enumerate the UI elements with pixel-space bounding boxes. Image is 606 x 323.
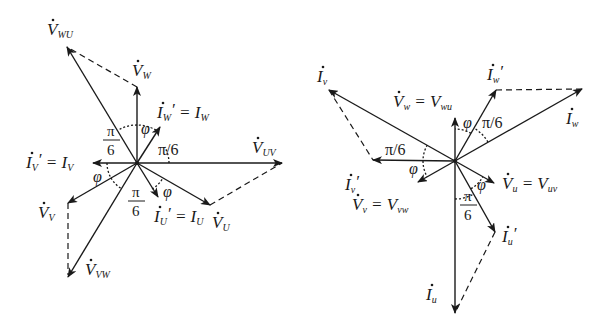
right-phasor-diagram: IvIv′Vw = VwuIw′IwVv = VvwVu = VuvIu′Iuφ… [316, 62, 582, 313]
dot-accent [507, 226, 510, 229]
phasor-diagrams: VWUVWIW′ = IWIV′ = IVVUVVUIU′ = IUVVVVWπ… [0, 0, 606, 323]
dot-accent [571, 108, 574, 111]
dot-accent [257, 137, 260, 140]
dot-accent [507, 173, 510, 176]
vector-label-v-v: Vv = Vvw [352, 195, 409, 215]
dot-accent [322, 66, 325, 69]
angle-arc [152, 178, 163, 189]
vector-label-v-w: VW [132, 61, 152, 81]
angle-label-pi-over-6: π/6 [158, 141, 179, 158]
dot-accent [90, 259, 93, 262]
left-phasor-diagram: VWUVWIW′ = IWIV′ = IVVUVVUIU′ = IUVVVVWπ… [25, 19, 282, 280]
vector-label-i-w: Iw [565, 109, 579, 129]
phasor-i-u-prime [137, 163, 158, 197]
vector-label-i-v: Iv [316, 67, 328, 87]
angle-arc [423, 145, 427, 161]
vector-label-v-vw: VVW [85, 260, 111, 280]
dot-accent [52, 19, 55, 22]
dashed-construction-line [210, 163, 282, 205]
dot-accent [159, 206, 162, 209]
phasor-v-v [68, 163, 137, 203]
angle-label-phi: φ [141, 120, 150, 138]
angle-label-pi: π [107, 123, 115, 139]
vector-label-v-u: Vu = Vuv [502, 174, 558, 194]
vector-label-v-u: VU [212, 213, 230, 233]
angle-label-pi-over-6: π/6 [482, 114, 503, 131]
angle-arc [118, 125, 137, 130]
angle-arc [111, 178, 122, 189]
dashed-construction-line [329, 90, 373, 160]
angle-label-phi: φ [409, 160, 418, 178]
vector-label-v-w: Vw = Vwu [393, 92, 452, 112]
phasor-v-vw [68, 163, 137, 277]
angle-label-pi-over-6: π/6 [385, 141, 406, 158]
phasor-v-wu [67, 47, 137, 163]
dot-accent [162, 102, 165, 105]
dot-accent [357, 194, 360, 197]
dashed-construction-line [455, 232, 495, 313]
dashed-construction-line [67, 47, 137, 87]
phasor-v-u [137, 163, 210, 205]
vector-label-v-uv: VUV [252, 138, 278, 158]
vector-label-v-v: VV [38, 203, 56, 223]
origin-point [453, 159, 457, 163]
dashed-construction-line [496, 89, 582, 90]
vector-label-i-w-prime: Iw′ [486, 62, 503, 85]
angle-label-phi: φ [163, 183, 172, 201]
phasor-v-v [418, 161, 455, 182]
angle-arc [107, 163, 111, 178]
dot-accent [431, 284, 434, 287]
angle-label-phi: φ [477, 176, 486, 194]
phasor-i-w [455, 89, 582, 161]
angle-label-pi: π [132, 184, 140, 200]
dot-accent [31, 152, 34, 155]
angle-arc [423, 161, 427, 177]
angle-label-denominator: 6 [464, 207, 472, 223]
angle-label-phi: φ [93, 168, 102, 186]
dot-accent [137, 60, 140, 63]
angle-label-denominator: 6 [132, 203, 140, 219]
angle-label-denominator: 6 [107, 142, 115, 158]
dot-accent [492, 64, 495, 67]
dot-accent [350, 174, 353, 177]
vector-label-i-u: Iu [425, 285, 437, 305]
dot-accent [398, 91, 401, 94]
angle-label-phi: φ [463, 114, 472, 132]
dot-accent [217, 212, 220, 215]
dot-accent [43, 202, 46, 205]
vector-label-v-wu: VWU [47, 20, 74, 40]
origin-point [135, 161, 139, 165]
